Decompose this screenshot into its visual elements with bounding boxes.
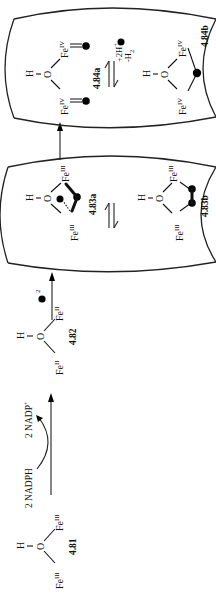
oxo-atom-left (82, 97, 90, 105)
fe-o-bond-left (51, 80, 60, 89)
iron-atom-right: FeIV (58, 41, 70, 58)
fe-o-bond-right (163, 183, 172, 192)
iron-atom-left: FeIII (53, 573, 65, 590)
hashed-bond (63, 201, 70, 211)
iron-atom-right: FeIV (176, 40, 188, 57)
fe-o-bridge-right (188, 48, 196, 71)
fe-o-bond-right (51, 59, 60, 68)
oxygen-atom: O (154, 195, 165, 202)
compound-label: 4.81 (68, 538, 78, 555)
lens-arc-left (8, 262, 216, 272)
iron-atom-left: FeIII (68, 225, 80, 242)
compound-label: 4.83b (200, 195, 210, 217)
oxygen-atom-bridging (57, 196, 64, 203)
lens-arc-top (0, 167, 8, 263)
oxo-atom-right (82, 42, 90, 50)
oxygen-dot-icon (38, 295, 45, 302)
arrowhead-icon (49, 272, 55, 281)
wedge-bond-right (66, 184, 77, 197)
reverse-half-arrowhead-icon (114, 80, 118, 87)
compound-4-81: H O FeIII FeIII 4.81 (15, 515, 78, 590)
compound-4-83b: H O FeIII FeIII 4.83b (136, 166, 210, 242)
fe-o-bridge-left (188, 75, 196, 91)
reaction-arrow-1: 2 NADPH 2 NADP+ (22, 393, 54, 508)
o2-subscript: 2 (34, 289, 42, 293)
reagent-h2: -H2 (123, 50, 135, 62)
oxygen-atom: O (42, 195, 53, 202)
arrowhead-icon (48, 393, 54, 402)
iron-atom-left: FeIV (176, 98, 188, 115)
oxo-atom-bridging (193, 69, 201, 77)
iron-atom-left: FeII (53, 361, 65, 375)
compound-4-84b: H O FeIV FeIV 4.84b (141, 25, 210, 115)
oxygen-dot-icon (118, 39, 125, 46)
iron-atom-left: FeIII (173, 225, 185, 242)
reaction-arrow-3 (57, 122, 63, 160)
arrowhead-icon (57, 122, 63, 131)
hydrogen-atom: H (24, 70, 35, 77)
fe-o-bond-right (168, 59, 177, 68)
iron-atom-right: FeII (53, 307, 65, 321)
oxygen-atom: O (159, 71, 170, 78)
compound-4-84a: H O FeIV FeIV 4.84a (24, 41, 102, 115)
compound-label: 4.84b (200, 25, 210, 47)
compound-4-82: H O FeII FeII 4.82 (15, 307, 78, 375)
iron-atom-left: FeIV (58, 98, 70, 115)
hydrogen-atom: H (136, 194, 147, 201)
fe-o-bond-left (44, 341, 55, 353)
fe-o-bond-left (168, 80, 177, 89)
fe-o-bond-right (51, 183, 61, 192)
oxygen-atom: O (35, 543, 46, 550)
reaction-arrow-2: 2 (34, 272, 55, 320)
reaction-scheme: H O FeIII FeIII 4.81 2 NADPH 2 NADP+ H O… (0, 0, 216, 603)
forward-half-arrowhead-icon (105, 203, 109, 210)
compound-label: 4.83a (88, 193, 98, 215)
hydrogen-atom: H (24, 194, 35, 201)
lens-arc-right (14, 8, 216, 19)
equilibrium-arrow-4-83 (105, 203, 118, 228)
wedge-bond-left (72, 198, 77, 211)
reagent-in: 2 NADPH (24, 468, 34, 508)
hydrogen-atom: H (15, 542, 26, 549)
iron-atom-right: FeIII (59, 166, 71, 183)
iron-atom-right: FeIII (167, 166, 179, 183)
oxygen-atom: O (42, 71, 53, 78)
lens-arc-right (8, 156, 216, 167)
hydrogen-atom: H (15, 332, 26, 339)
hydrogen-atom: H (141, 70, 152, 77)
iron-atom-right: FeIII (53, 515, 65, 532)
fe-o-bond-left (44, 551, 55, 563)
intermediate-group-4-84: H O FeIV FeIV 4.84a +2H+ -H2 (5, 8, 216, 128)
compound-label: 4.82 (68, 328, 78, 345)
fe-o-bond-left (163, 204, 172, 213)
equilibrium-arrow-4-84: +2H+ -H2 (105, 39, 135, 88)
compound-4-83a: H O FeIII FeIII 4.83a (24, 166, 98, 242)
reverse-half-arrowhead-icon (114, 221, 118, 228)
fe-o-bond-left (51, 204, 61, 213)
oxygen-atom: O (35, 333, 46, 340)
curved-arrow (37, 418, 48, 469)
lens-arc-left (14, 117, 216, 128)
compound-label: 4.84a (92, 67, 102, 89)
lens-arc-top (5, 19, 14, 118)
reagent-out: 2 NADP+ (22, 401, 34, 438)
intermediate-group-4-83: H O FeIII FeIII 4.83a H O (0, 156, 216, 272)
curved-arrowhead-icon (36, 415, 43, 422)
forward-half-arrowhead-icon (105, 61, 109, 68)
